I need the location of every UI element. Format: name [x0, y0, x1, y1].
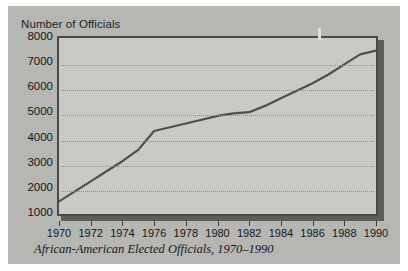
y-axis-tick-label: 8000: [9, 30, 53, 42]
y-axis-tick-label: 3000: [9, 156, 53, 168]
x-axis-tick-label: 1988: [332, 227, 356, 239]
plot-inner: [59, 38, 376, 214]
y-axis-tick-label: 1000: [9, 206, 53, 218]
x-axis-tick-label: 1970: [47, 227, 71, 239]
x-axis-tick: [186, 221, 187, 226]
gridline: [61, 191, 374, 192]
x-axis-tick-label: 1978: [174, 227, 198, 239]
x-axis-tick-label: 1980: [205, 227, 229, 239]
chart-axis-title: Number of Officials: [21, 18, 120, 30]
x-axis-tick: [91, 221, 92, 226]
x-axis-tick-label: 1972: [78, 227, 102, 239]
x-axis-tick: [249, 221, 250, 226]
x-axis-tick: [376, 221, 377, 226]
x-axis-tick-label: 1984: [269, 227, 293, 239]
plot-frame: [57, 36, 384, 216]
gridline: [61, 90, 374, 91]
plot-frame-shadow-right: [378, 40, 384, 220]
x-axis-tick-label: 1976: [142, 227, 166, 239]
x-axis-tick: [281, 221, 282, 226]
y-axis-tick-label: 4000: [9, 131, 53, 143]
y-axis-tick-label: 7000: [9, 55, 53, 67]
x-axis-tick-label: 1990: [364, 227, 388, 239]
x-axis-tick-label: 1986: [300, 227, 324, 239]
gridline: [61, 141, 374, 142]
y-axis-tick-label: 5000: [9, 105, 53, 117]
chart-figure: Number of Officials 80007000600050004000…: [8, 6, 400, 264]
gridline: [61, 115, 374, 116]
x-axis-tick: [344, 221, 345, 226]
chart-caption: African-American Elected Officials, 1970…: [34, 242, 274, 257]
x-axis: 1970197219741976197819801982198419861988…: [57, 216, 384, 240]
gridline: [61, 65, 374, 66]
x-axis-tick-label: 1982: [237, 227, 261, 239]
x-axis-tick: [59, 221, 60, 226]
x-axis-tick-label: 1974: [110, 227, 134, 239]
x-axis-tick: [218, 221, 219, 226]
gridline: [61, 166, 374, 167]
y-axis-tick-labels: 80007000600050004000300020001000: [8, 36, 53, 216]
y-axis-tick-label: 6000: [9, 80, 53, 92]
x-axis-tick: [122, 221, 123, 226]
x-axis-tick: [313, 221, 314, 226]
y-axis-tick-label: 2000: [9, 181, 53, 193]
x-axis-tick: [154, 221, 155, 226]
plot-area: [57, 36, 378, 216]
top-border-tick-icon: [318, 28, 321, 40]
